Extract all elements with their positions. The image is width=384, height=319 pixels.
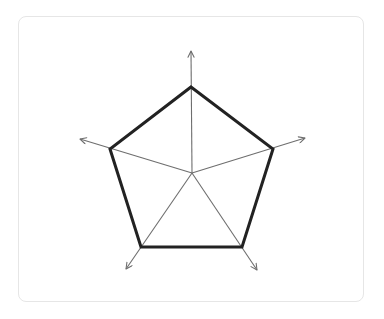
- axis-bottom-left-arrow: [126, 173, 192, 269]
- axis-top-arrow: [191, 51, 192, 173]
- axis-bottom-right-arrow: [192, 173, 257, 270]
- pentagon-radar-diagram: [0, 0, 384, 319]
- axis-right-arrow: [192, 138, 305, 173]
- axis-left-arrow: [80, 139, 192, 173]
